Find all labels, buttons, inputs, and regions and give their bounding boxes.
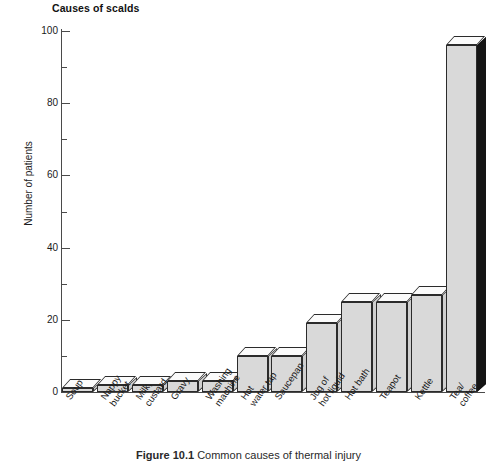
bar-side-face (477, 37, 486, 392)
figure-caption-number: Figure 10.1 (136, 449, 194, 461)
bar (446, 45, 477, 392)
bar-chart: Causes of scalds Number of patients 0204… (0, 0, 497, 463)
figure-caption-text: Common causes of thermal injury (197, 449, 361, 461)
figure-caption: Figure 10.1 Common causes of thermal inj… (0, 449, 497, 463)
bar-front-face (446, 45, 477, 392)
